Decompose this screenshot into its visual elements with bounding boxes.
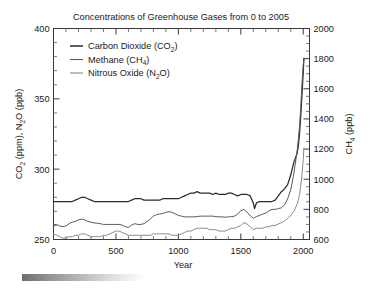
x-tick-500: 500 <box>108 246 123 256</box>
data-series-group <box>54 58 304 238</box>
y-left-tick-350: 350 <box>34 94 49 104</box>
x-tick-0: 0 <box>51 246 56 256</box>
y-right-title-part2: (ppb) <box>344 114 354 138</box>
y-right-tick-1800: 1800 <box>314 54 334 64</box>
y-left-title-part1: CO <box>14 166 24 180</box>
svg-text:CH4 (ppb): CH4 (ppb) <box>344 114 356 155</box>
y-right-title-part1: CH <box>344 141 354 154</box>
x-axis-title: Year <box>174 260 193 270</box>
y-right-axis-title: CH4 (ppb) <box>344 114 356 155</box>
chart-canvas: Concentrations of Greenhouse Gases from … <box>0 0 370 290</box>
gray-gradient-bar <box>22 274 144 281</box>
chart-title: Concentrations of Greenhouse Gases from … <box>73 12 289 22</box>
legend-label-n2o: Nitrous Oxide (N2O) <box>88 68 170 80</box>
legend-label-ch4: Methane (CH4) <box>88 55 149 67</box>
series-line-co2 <box>54 58 304 209</box>
y-right-tick-800: 800 <box>314 205 329 215</box>
y-right-tick-2000: 2000 <box>314 24 334 34</box>
x-tick-1500: 1500 <box>231 246 251 256</box>
y-left-tick-400: 400 <box>34 24 49 34</box>
chart-legend: Carbon Dioxide (CO2)Methane (CH4)Nitrous… <box>70 41 177 80</box>
y-left-title-part2: (ppm), N <box>14 124 24 162</box>
y-left-axis-title: CO2 (ppm), N2O (ppb) <box>14 89 26 180</box>
svg-text:CO2 (ppm), N2O (ppb): CO2 (ppm), N2O (ppb) <box>14 89 26 180</box>
greenhouse-gas-chart-figure: Concentrations of Greenhouse Gases from … <box>0 0 370 290</box>
y-right-tick-1600: 1600 <box>314 84 334 94</box>
y-right-tick-labels: 600800100012001400160018002000 <box>314 24 334 245</box>
y-left-tick-250: 250 <box>34 235 49 245</box>
y-left-tick-300: 300 <box>34 165 49 175</box>
series-line-n2o <box>54 148 304 238</box>
x-tick-labels: 0500100015002000 <box>51 246 314 256</box>
y-right-tick-1400: 1400 <box>314 114 334 124</box>
series-line-ch4 <box>54 60 304 227</box>
y-left-ticks <box>54 29 60 240</box>
x-ticks-top <box>54 29 304 35</box>
legend-label-co2: Carbon Dioxide (CO2) <box>88 41 177 53</box>
x-tick-1000: 1000 <box>168 246 188 256</box>
y-right-tick-1000: 1000 <box>314 175 334 185</box>
y-left-tick-labels: 250300350400 <box>34 24 49 245</box>
y-right-tick-1200: 1200 <box>314 144 334 154</box>
y-left-title-part3: O (ppb) <box>14 89 24 120</box>
x-tick-2000: 2000 <box>293 246 313 256</box>
y-right-tick-600: 600 <box>314 235 329 245</box>
